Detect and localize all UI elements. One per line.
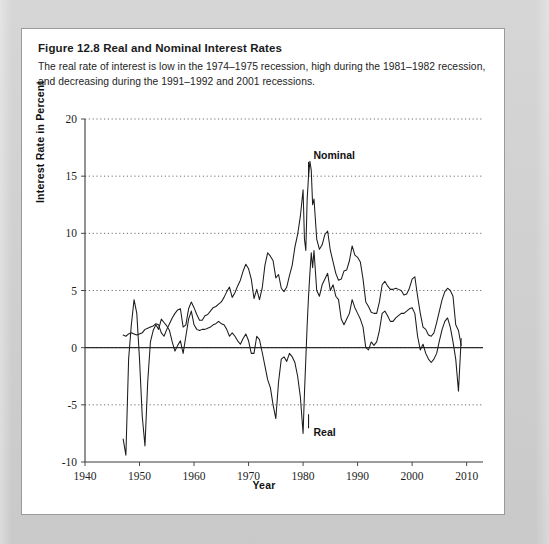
- series-line-real: [123, 250, 461, 455]
- x-tick-label: 1970: [237, 470, 260, 482]
- figure-title-line: Figure 12.8 Real and Nominal Interest Ra…: [38, 41, 486, 56]
- x-tick-label: 2000: [401, 470, 424, 482]
- y-tick-label: 15: [66, 170, 78, 182]
- x-tick-label: 1980: [292, 470, 315, 482]
- series-label-real: Real: [314, 426, 336, 438]
- plot-canvas: -10-505101520194019501960197019801990200…: [38, 107, 490, 505]
- series-line-nominal: [123, 161, 461, 345]
- y-tick-label: 10: [66, 227, 78, 239]
- y-tick-label: -5: [67, 399, 77, 411]
- figure-caption: The real rate of interest is low in the …: [38, 60, 486, 89]
- page-background: Figure 12.8 Real and Nominal Interest Ra…: [0, 0, 549, 544]
- figure-number: Figure 12.8: [38, 42, 100, 54]
- x-tick-label: 2010: [455, 470, 478, 482]
- x-tick-label: 1960: [183, 470, 206, 482]
- x-tick-label: 1940: [74, 470, 97, 482]
- y-tick-label: 20: [66, 113, 78, 125]
- y-tick-label: 5: [71, 285, 77, 297]
- y-tick-label: 0: [71, 342, 77, 354]
- interest-rate-line-chart: -10-505101520194019501960197019801990200…: [38, 107, 490, 505]
- figure-card: Figure 12.8 Real and Nominal Interest Ra…: [21, 28, 505, 515]
- x-tick-label: 1950: [128, 470, 151, 482]
- figure-header: Figure 12.8 Real and Nominal Interest Ra…: [38, 41, 486, 89]
- figure-title: Real and Nominal Interest Rates: [103, 42, 282, 54]
- series-label-nominal: Nominal: [314, 149, 356, 161]
- y-tick-label: -10: [62, 456, 78, 468]
- chart-area: Interest Rate in Percent Year -10-505101…: [38, 107, 490, 505]
- x-tick-label: 1990: [346, 470, 369, 482]
